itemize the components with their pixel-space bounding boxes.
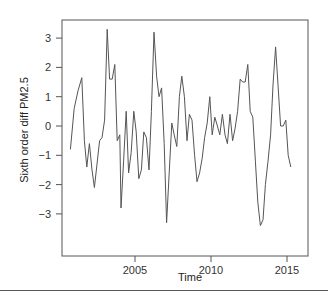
y-tick-label: 0 <box>45 120 51 132</box>
y-axis-title: Sixth order diff PM2.5 <box>18 77 30 183</box>
plot-frame <box>62 20 308 256</box>
x-tick-label: 2005 <box>123 264 147 276</box>
x-axis: 200520102015 <box>123 256 299 276</box>
y-tick-label: 2 <box>45 61 51 73</box>
y-tick-label: −3 <box>38 208 51 220</box>
bottom-divider <box>0 290 328 291</box>
x-tick-label: 2010 <box>199 264 223 276</box>
x-tick-label: 2015 <box>275 264 299 276</box>
y-tick-label: 1 <box>45 91 51 103</box>
y-tick-label: −2 <box>38 179 51 191</box>
y-axis: −3−2−10123 <box>38 32 62 220</box>
y-tick-label: 3 <box>45 32 51 44</box>
x-axis-title: Time <box>178 271 202 283</box>
y-tick-label: −1 <box>38 149 51 161</box>
data-series-line <box>70 29 290 225</box>
line-chart: −3−2−10123 200520102015 Sixth order diff… <box>0 0 328 298</box>
